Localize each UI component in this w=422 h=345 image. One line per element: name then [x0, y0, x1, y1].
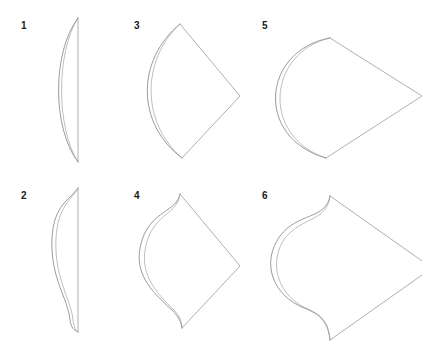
figure-3-drawing: [128, 8, 268, 178]
figure-3-arc-inner: [151, 24, 182, 158]
figure-1-drawing: [8, 8, 148, 178]
figure-6-drawing: [256, 178, 396, 345]
figure-4-arc-inner: [144, 194, 182, 328]
figure-5-drawing: [256, 8, 396, 178]
figure-6-edges: [330, 196, 422, 340]
figure-5-arc-inner: [280, 38, 330, 158]
figure-2-arc-outer: [52, 188, 78, 332]
figure-1: 1: [8, 8, 148, 178]
figure-2: 2: [8, 178, 148, 345]
figure-6-arc-inner: [277, 196, 330, 340]
figure-3-edges: [180, 24, 240, 158]
figure-5-arc-outer: [275, 38, 330, 158]
figure-3: 3: [128, 8, 268, 178]
figure-4-arc-outer: [139, 194, 182, 328]
figure-4: 4: [128, 178, 268, 345]
figure-2-drawing: [8, 178, 148, 345]
figure-4-edges: [180, 194, 240, 328]
figure-4-drawing: [128, 178, 268, 345]
figure-6: 6: [256, 178, 396, 345]
figure-5-edges: [326, 38, 422, 158]
figure-5: 5: [256, 8, 396, 178]
figure-6-arc-outer: [271, 196, 330, 340]
figure-1-arc-inner: [62, 18, 79, 162]
